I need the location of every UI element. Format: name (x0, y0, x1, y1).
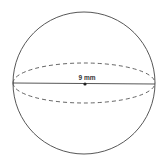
sphere-diagram: 9 mm (0, 0, 164, 163)
equator-front-dashed (13, 83, 155, 103)
diameter-label: 9 mm (79, 74, 96, 81)
center-point (83, 82, 86, 85)
